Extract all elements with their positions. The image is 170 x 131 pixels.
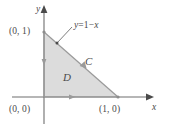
x-axis-label: x: [152, 103, 156, 113]
region-label-D: D: [63, 72, 71, 83]
y-axis-arrowhead: [41, 5, 48, 13]
vertex-dot-top: [42, 30, 45, 33]
vertex-label-1-0: (1, 0): [99, 105, 120, 115]
equation-leader-dot: [56, 42, 59, 45]
vertex-dot-right: [116, 95, 119, 98]
equation-label: y=1−x: [74, 21, 98, 31]
y-axis-label: y: [36, 5, 40, 15]
triangular-region-diagram: (0, 1) (0, 0) (1, 0) y x C D y=1−x: [0, 0, 170, 131]
vertex-label-0-0: (0, 0): [9, 105, 30, 115]
equation-leader-line: [57, 27, 72, 43]
vertex-label-0-1: (0, 1): [9, 27, 30, 37]
x-axis-arrowhead: [146, 93, 154, 100]
curve-label-C: C: [85, 56, 92, 67]
equation-x-term: x: [94, 20, 98, 30]
